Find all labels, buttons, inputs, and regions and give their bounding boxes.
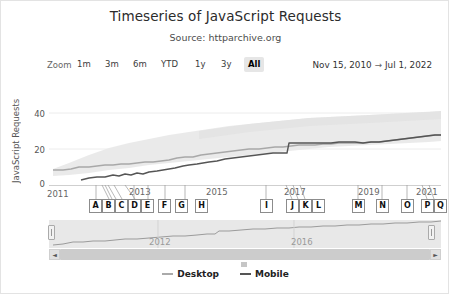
annotation-flag-d[interactable]: D (128, 199, 141, 213)
annotation-flag-c[interactable]: C (115, 199, 128, 213)
plot-area[interactable] (49, 85, 441, 185)
navigator-year-2016: 2016 (291, 237, 313, 247)
legend-label-mobile: Mobile (255, 269, 289, 279)
y-tick-20: 20 (27, 145, 45, 155)
annotation-flag-p[interactable]: P (421, 199, 434, 213)
annotation-flag-a[interactable]: A (89, 199, 102, 213)
navigator[interactable]: 2012 2016 (49, 220, 441, 248)
date-range-inputs: Nov 15, 2010→Jul 1, 2022 (312, 60, 432, 70)
navigator-series-svg (49, 220, 441, 248)
scrollbar-left-arrow-icon[interactable]: ◄ (49, 249, 60, 260)
annotation-flag-g[interactable]: G (175, 199, 188, 213)
legend-label-desktop: Desktop (177, 269, 219, 279)
chart-title: Timeseries of JavaScript Requests (1, 8, 449, 24)
annotation-flag-b[interactable]: B (102, 199, 115, 213)
scrollbar-track[interactable] (60, 249, 430, 260)
chart-widget: Timeseries of JavaScript Requests Source… (0, 0, 449, 294)
legend-item-desktop[interactable]: Desktop (162, 269, 219, 279)
range-from-input[interactable]: Nov 15, 2010 (312, 60, 371, 70)
navigator-handle-right[interactable] (428, 225, 435, 240)
scrollbar-thumb[interactable] (60, 249, 430, 260)
legend: Desktop Mobile (1, 269, 449, 279)
zoom-label: Zoom (47, 60, 72, 70)
range-button-6m[interactable]: 6m (129, 57, 151, 72)
range-arrow-icon: → (372, 60, 385, 70)
range-button-3y[interactable]: 3y (217, 57, 235, 72)
scrollbar[interactable]: ◄ ► (49, 249, 441, 260)
annotation-flag-l[interactable]: L (312, 199, 325, 213)
annotation-flag-h[interactable]: H (195, 199, 208, 213)
navigator-year-2012: 2012 (149, 237, 171, 247)
annotation-flag-k[interactable]: K (299, 199, 312, 213)
annotation-flag-n[interactable]: N (376, 199, 389, 213)
annotation-flag-i[interactable]: I (260, 199, 273, 213)
plot-svg (49, 85, 441, 185)
annotation-flag-q[interactable]: Q (434, 199, 447, 213)
scrollbar-right-arrow-icon[interactable]: ► (430, 249, 441, 260)
range-to-input[interactable]: Jul 1, 2022 (385, 60, 432, 70)
legend-item-mobile[interactable]: Mobile (240, 269, 289, 279)
y-axis-title: JavaScript Requests (9, 91, 23, 191)
range-button-3m[interactable]: 3m (101, 57, 123, 72)
annotation-flag-o[interactable]: O (401, 199, 414, 213)
range-button-1y[interactable]: 1y (191, 57, 209, 72)
range-button-all[interactable]: All (244, 57, 264, 72)
legend-swatch-desktop (162, 273, 173, 275)
range-button-1m[interactable]: 1m (73, 57, 95, 72)
range-button-ytd[interactable]: YTD (157, 57, 182, 72)
y-tick-40: 40 (27, 109, 45, 119)
range-selector: Zoom 1m 3m 6m YTD 1y 3y All Nov 15, 2010… (1, 57, 449, 73)
left-arrow-glyph: ◄ (50, 250, 59, 259)
legend-swatch-mobile (240, 273, 251, 275)
right-arrow-glyph: ► (431, 250, 440, 259)
annotation-flag-e[interactable]: E (141, 199, 154, 213)
chart-subtitle: Source: httparchive.org (1, 32, 449, 43)
navigator-handle-left[interactable] (48, 225, 55, 240)
annotation-flag-j[interactable]: J (286, 199, 299, 213)
navigator-series-line (53, 221, 441, 245)
scrollbar-grip-icon (242, 252, 249, 257)
annotation-flag-f[interactable]: F (158, 199, 171, 213)
annotation-flag-m[interactable]: M (352, 199, 365, 213)
